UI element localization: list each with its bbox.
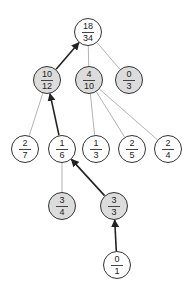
tree-node-18-34: 1834 — [74, 18, 102, 46]
tree-node-0-3: 03 — [115, 66, 143, 94]
node-denominator: 7 — [22, 151, 27, 160]
tree-node-2-5: 25 — [118, 135, 146, 163]
tree-node-0-1: 01 — [103, 251, 131, 279]
node-denominator: 3 — [126, 82, 131, 91]
node-numerator: 2 — [129, 139, 134, 148]
node-numerator: 10 — [42, 70, 52, 79]
node-numerator: 1 — [59, 139, 64, 148]
node-numerator: 4 — [86, 70, 91, 79]
edge-n11-n10 — [115, 220, 117, 251]
edge-n1-n0 — [56, 43, 79, 70]
node-numerator: 2 — [22, 139, 27, 148]
node-denominator: 1 — [114, 267, 119, 276]
node-denominator: 6 — [59, 151, 64, 160]
tree-node-10-12: 1012 — [33, 66, 61, 94]
edge-n10-n5 — [71, 159, 104, 195]
edge-n6-n2 — [90, 94, 94, 135]
node-numerator: 2 — [165, 139, 170, 148]
node-numerator: 0 — [114, 255, 119, 264]
tree-node-2-7: 27 — [11, 135, 39, 163]
node-denominator: 12 — [42, 82, 52, 91]
node-numerator: 18 — [83, 22, 93, 31]
node-numerator: 1 — [93, 139, 98, 148]
node-denominator: 10 — [84, 82, 94, 91]
tree-node-1-6: 16 — [48, 135, 76, 163]
edge-n5-n1 — [50, 94, 59, 136]
node-denominator: 3 — [93, 151, 98, 160]
node-numerator: 3 — [59, 196, 64, 205]
tree-node-1-3: 13 — [82, 135, 110, 163]
node-denominator: 34 — [83, 34, 93, 43]
edge-n4-n1 — [29, 93, 42, 135]
node-numerator: 0 — [126, 70, 131, 79]
tree-node-2-4: 24 — [154, 135, 182, 163]
node-denominator: 4 — [165, 151, 170, 160]
tree-node-3-4: 34 — [48, 192, 76, 220]
node-numerator: 3 — [111, 196, 116, 205]
tree-node-3-3: 33 — [100, 192, 128, 220]
node-denominator: 4 — [59, 208, 64, 217]
node-denominator: 3 — [111, 208, 116, 217]
edge-n3-n0 — [97, 43, 120, 70]
tree-node-4-10: 410 — [75, 66, 103, 94]
node-denominator: 5 — [129, 151, 134, 160]
edge-n8-n2 — [100, 89, 158, 140]
